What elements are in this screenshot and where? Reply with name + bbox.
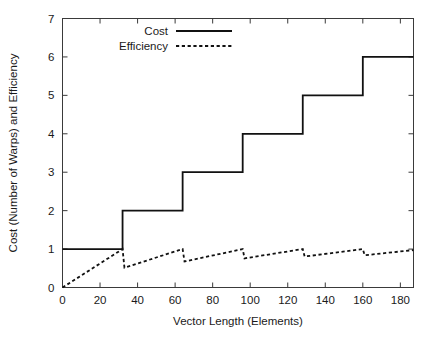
- y-tick-label: 1: [48, 243, 54, 255]
- x-tick-label: 60: [169, 294, 182, 306]
- x-tick-label: 180: [391, 294, 410, 306]
- y-tick-label: 2: [48, 205, 54, 217]
- y-tick-label: 0: [48, 282, 54, 294]
- x-axis-ticks: [63, 19, 401, 288]
- y-tick-label: 7: [48, 13, 54, 25]
- chart-figure: 020406080100120140160180 01234567 Cost E…: [0, 0, 431, 338]
- x-tick-label: 120: [278, 294, 297, 306]
- y-tick-label: 6: [48, 51, 54, 63]
- chart-legend: Cost Efficiency: [119, 25, 232, 52]
- x-tick-label: 80: [206, 294, 219, 306]
- plot-frame: [63, 19, 414, 288]
- series-line-efficiency: [63, 249, 414, 287]
- y-tick-label: 4: [48, 128, 55, 140]
- x-tick-label: 20: [94, 294, 107, 306]
- y-axis-tick-labels: 01234567: [48, 13, 55, 294]
- series-line-cost: [63, 57, 414, 249]
- x-tick-label: 40: [131, 294, 144, 306]
- y-axis-title: Cost (Number of Warps) and Efficiency: [7, 53, 19, 252]
- x-tick-label: 160: [353, 294, 372, 306]
- x-tick-label: 140: [316, 294, 335, 306]
- y-tick-label: 3: [48, 166, 54, 178]
- y-axis-ticks: [63, 19, 414, 288]
- y-tick-label: 5: [48, 89, 54, 101]
- chart-plot-area: 020406080100120140160180 01234567 Cost E…: [0, 0, 431, 338]
- x-tick-label: 0: [59, 294, 65, 306]
- x-axis-title: Vector Length (Elements): [173, 315, 303, 327]
- legend-label-efficiency: Efficiency: [119, 40, 168, 52]
- x-axis-tick-labels: 020406080100120140160180: [59, 294, 410, 306]
- legend-label-cost: Cost: [144, 25, 168, 37]
- x-tick-label: 100: [241, 294, 260, 306]
